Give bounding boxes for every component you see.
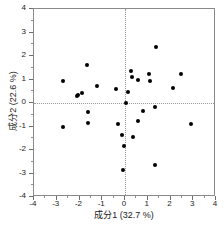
x-axis-tick-label: 0	[114, 199, 134, 208]
data-point	[153, 105, 157, 109]
y-axis-tick	[29, 126, 33, 127]
scatter-plot-figure: 成分1 (32.7 %) 成分2 (22.6 %) -4-3-2-101234-…	[0, 0, 224, 228]
x-axis-minor-tick	[67, 196, 68, 198]
y-axis-tick	[29, 173, 33, 174]
y-axis-tick-label: 2	[8, 50, 26, 59]
y-axis-tick-label: 4	[8, 3, 26, 12]
x-axis-minor-tick	[135, 196, 136, 198]
data-point	[86, 121, 90, 125]
y-axis-minor-tick	[31, 67, 33, 68]
data-point	[130, 75, 134, 79]
data-point	[136, 119, 140, 123]
x-axis-tick-label: 4	[205, 199, 224, 208]
y-axis-tick-label: -3	[8, 168, 26, 177]
y-axis-tick-label: 0	[8, 97, 26, 106]
data-point	[148, 79, 152, 83]
x-axis-minor-tick	[181, 196, 182, 198]
y-axis-minor-tick	[31, 20, 33, 21]
y-axis-tick	[29, 32, 33, 33]
y-axis-tick	[29, 196, 33, 197]
data-point	[80, 91, 84, 95]
data-point	[131, 135, 135, 139]
y-axis-tick-label: -1	[8, 121, 26, 130]
data-point	[189, 122, 193, 126]
x-axis-tick-label: -1	[91, 199, 111, 208]
x-axis-minor-tick	[44, 196, 45, 198]
x-axis-tick-label: -3	[46, 199, 66, 208]
data-point	[86, 110, 90, 114]
data-point	[129, 69, 133, 73]
data-point	[154, 45, 158, 49]
data-point	[124, 101, 128, 105]
x-axis-tick-label: -4	[23, 199, 43, 208]
data-point	[114, 87, 118, 91]
y-axis-minor-tick	[31, 43, 33, 44]
y-axis-tick-label: 3	[8, 27, 26, 36]
data-point	[147, 72, 151, 76]
data-point	[120, 133, 124, 137]
data-point	[116, 122, 120, 126]
plot-area	[33, 8, 215, 196]
data-point	[136, 78, 140, 82]
data-point	[95, 84, 99, 88]
data-point	[153, 163, 157, 167]
y-axis-tick	[29, 79, 33, 80]
y-axis-minor-tick	[31, 161, 33, 162]
x-axis-minor-tick	[113, 196, 114, 198]
x-axis-tick-label: -2	[69, 199, 89, 208]
data-point	[179, 72, 183, 76]
y-axis-minor-tick	[31, 137, 33, 138]
x-axis-minor-tick	[158, 196, 159, 198]
x-axis-minor-tick	[204, 196, 205, 198]
y-axis-tick	[29, 55, 33, 56]
y-axis-minor-tick	[31, 90, 33, 91]
y-axis-tick	[29, 149, 33, 150]
data-point	[61, 79, 65, 83]
y-axis-tick-label: -2	[8, 144, 26, 153]
data-point	[61, 125, 65, 129]
y-axis-tick	[29, 8, 33, 9]
x-axis-tick-label: 1	[137, 199, 157, 208]
x-axis-title: 成分1 (32.7 %)	[33, 208, 215, 221]
data-point	[141, 109, 145, 113]
y-axis-minor-tick	[31, 114, 33, 115]
y-axis-minor-tick	[31, 184, 33, 185]
x-axis-tick-label: 2	[160, 199, 180, 208]
data-point	[126, 90, 130, 94]
x-axis-minor-tick	[90, 196, 91, 198]
y-axis-tick-label: -4	[8, 191, 26, 200]
data-point	[121, 168, 125, 172]
data-point	[85, 63, 89, 67]
y-axis-tick-label: 1	[8, 74, 26, 83]
x-axis-tick-label: 3	[182, 199, 202, 208]
y-axis-tick	[29, 102, 33, 103]
data-point	[171, 86, 175, 90]
